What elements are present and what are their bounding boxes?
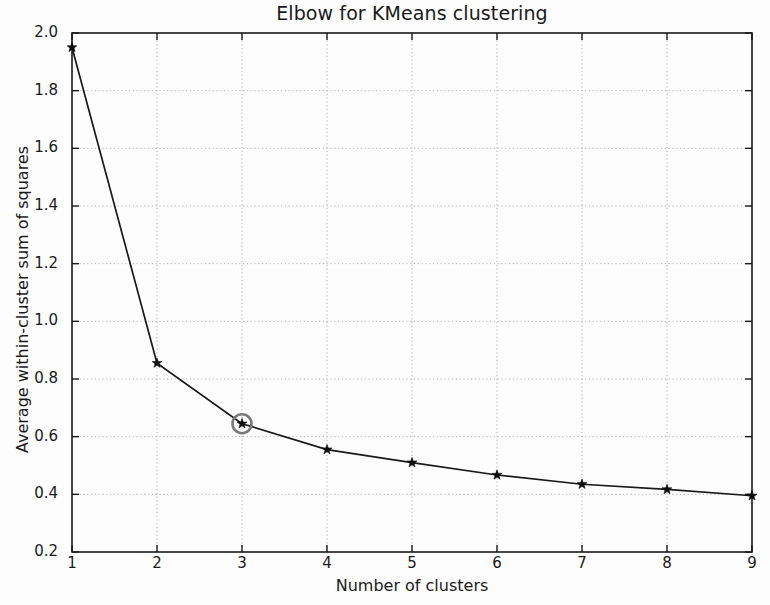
data-point-marker bbox=[577, 479, 587, 488]
data-point-marker bbox=[237, 418, 247, 427]
data-point-marker bbox=[662, 484, 672, 493]
data-point-marker bbox=[407, 457, 417, 466]
gridlines bbox=[72, 33, 752, 552]
data-point-markers bbox=[67, 42, 757, 500]
plot-area bbox=[0, 0, 770, 605]
chart-figure: Elbow for KMeans clustering Average with… bbox=[0, 0, 770, 605]
data-point-marker bbox=[322, 444, 332, 453]
